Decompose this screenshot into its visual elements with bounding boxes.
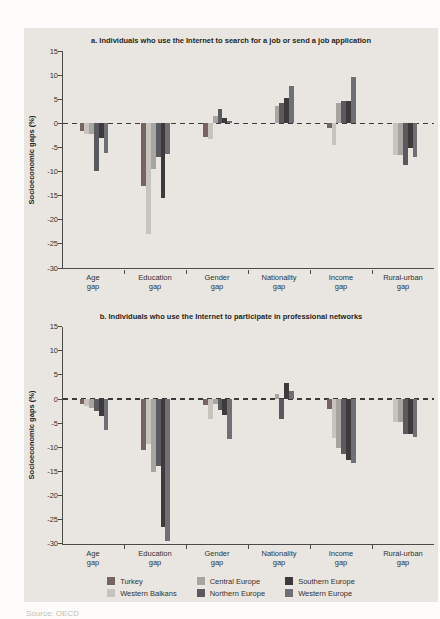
bar-slot [413, 51, 418, 268]
x-category-label: Educationgap [124, 273, 186, 292]
chart-b: b. Individuals who use the Internet to p… [24, 312, 438, 568]
bar [413, 399, 418, 437]
category-group [248, 51, 310, 268]
y-tick-mark [58, 75, 62, 76]
category-group [187, 327, 249, 544]
x-label-line2: gap [248, 282, 310, 291]
bar-groups [63, 51, 434, 268]
bar-slot [351, 51, 356, 268]
figure-panel: a. Individuals who use the Internet to s… [24, 28, 438, 602]
x-label-line2: gap [124, 282, 186, 291]
x-axis-tick [248, 545, 249, 549]
bar-slot [289, 327, 294, 544]
legend-item: Western Europe [285, 589, 355, 598]
category-group [310, 327, 372, 544]
y-tick-mark [58, 447, 62, 448]
x-category-label: Gendergap [186, 549, 248, 568]
y-tick-mark [58, 147, 62, 148]
category-group [125, 51, 187, 268]
x-axis-tick [186, 545, 187, 549]
bar [227, 121, 232, 123]
x-category-label: Agegap [62, 549, 124, 568]
bar [413, 123, 418, 157]
bar [227, 399, 232, 439]
y-tick-label: -20 [47, 215, 58, 224]
x-category-label: Nationalitygap [248, 273, 310, 292]
x-label-line1: Gender [186, 549, 248, 558]
x-category-label: Gendergap [186, 273, 248, 292]
y-axis-label: Socioeconomic gaps (%) [27, 115, 36, 204]
y-tick-mark [58, 399, 62, 400]
legend-label: Southern Europe [298, 577, 355, 586]
y-tick-mark [58, 543, 62, 544]
chart-b-plot-area [62, 327, 434, 545]
y-tick-label: -15 [47, 191, 58, 200]
y-tick-mark [58, 99, 62, 100]
x-label-line1: Age [62, 549, 124, 558]
y-tick-label: -30 [47, 539, 58, 548]
x-label-line2: gap [124, 558, 186, 567]
bar [289, 86, 294, 124]
x-label-line1: Education [124, 549, 186, 558]
legend-swatch [285, 589, 293, 597]
x-label-line1: Nationality [248, 549, 310, 558]
x-category-label: Incomegap [310, 549, 372, 568]
y-tick-label: 10 [50, 346, 58, 355]
bar [351, 77, 356, 124]
x-axis-tick [186, 270, 187, 274]
x-label-line1: Education [124, 273, 186, 282]
legend-label: Western Europe [298, 589, 352, 598]
bar-slot [227, 327, 232, 544]
x-axis-tick [124, 270, 125, 274]
bar-slot [351, 327, 356, 544]
bar-slot [104, 51, 109, 268]
y-tick-mark [58, 519, 62, 520]
chart-a-title: a. Individuals who use the Internet to s… [24, 36, 438, 45]
legend-swatch [107, 589, 115, 597]
y-tick-mark [58, 268, 62, 269]
chart-b-yaxis-label-column: Socioeconomic gaps (%) [24, 327, 38, 544]
x-category-label: Incomegap [310, 273, 372, 292]
legend-swatch [197, 577, 205, 585]
bar [289, 391, 294, 399]
legend-item: Western Balkans [107, 589, 177, 598]
y-tick-mark [58, 326, 62, 327]
y-tick-mark [58, 471, 62, 472]
x-axis-tick [372, 270, 373, 274]
x-label-line1: Income [310, 273, 372, 282]
category-group [372, 327, 434, 544]
bar-slot [289, 51, 294, 268]
y-axis-label: Socioeconomic gaps (%) [27, 391, 36, 480]
bar-slot [104, 327, 109, 544]
x-axis-tick [248, 270, 249, 274]
legend-item: Central Europe [197, 577, 265, 586]
x-axis-tick [124, 545, 125, 549]
legend-swatch [107, 577, 115, 585]
chart-b-title: b. Individuals who use the Internet to p… [24, 312, 438, 321]
legend-label: Central Europe [210, 577, 260, 586]
bar-slot [227, 51, 232, 268]
x-category-label: Nationalitygap [248, 549, 310, 568]
bar [104, 399, 109, 430]
chart-a-x-labels: AgegapEducationgapGendergapNationalityga… [62, 273, 434, 292]
legend-grid: TurkeyCentral EuropeSouthern EuropeWeste… [107, 577, 355, 598]
y-tick-label: -15 [47, 467, 58, 476]
x-category-label: Rural-urbangap [372, 549, 434, 568]
x-label-line2: gap [310, 558, 372, 567]
x-label-line1: Age [62, 273, 124, 282]
y-tick-label: -25 [47, 515, 58, 524]
source-text: Source: OECD [26, 609, 79, 618]
bar-groups [63, 327, 434, 544]
legend-item: Southern Europe [285, 577, 355, 586]
legend-swatch [197, 589, 205, 597]
chart-b-ytick-column: 151050-5-10-15-20-25-30 [38, 327, 62, 544]
y-tick-label: 15 [50, 47, 58, 56]
x-axis-tick [310, 545, 311, 549]
legend: TurkeyCentral EuropeSouthern EuropeWeste… [24, 577, 438, 598]
x-label-line2: gap [310, 282, 372, 291]
y-tick-mark [58, 423, 62, 424]
legend-label: Western Balkans [120, 589, 177, 598]
y-tick-label: 15 [50, 322, 58, 331]
y-tick-label: -20 [47, 491, 58, 500]
bar-slot [413, 327, 418, 544]
